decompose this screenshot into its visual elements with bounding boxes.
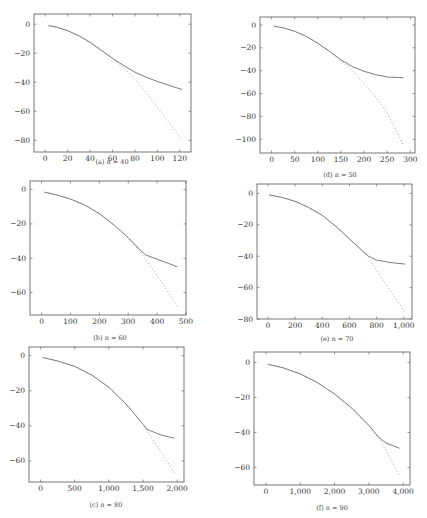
series-dashed xyxy=(268,364,400,476)
x-tick-label: 600 xyxy=(342,321,357,330)
y-tick-label: −60 xyxy=(237,283,253,292)
y-tick-label: −20 xyxy=(240,43,256,52)
x-tick-label: 250 xyxy=(380,155,395,164)
x-tick-label: 500 xyxy=(179,317,194,326)
y-tick-label: −60 xyxy=(9,456,25,465)
y-tick-label: −100 xyxy=(235,135,256,144)
x-tick-label: 2,000 xyxy=(324,487,346,496)
x-tick-label: 200 xyxy=(288,321,303,330)
x-tick-label: 200 xyxy=(357,155,372,164)
x-tick-label: 50 xyxy=(290,155,300,164)
x-tick-label: 4,000 xyxy=(392,487,414,496)
y-tick-label: −20 xyxy=(10,219,26,228)
x-tick-label: 3,000 xyxy=(358,487,380,496)
y-tick-label: −20 xyxy=(14,49,30,58)
x-tick-label: 0 xyxy=(43,154,48,163)
series-solid xyxy=(274,26,404,78)
y-tick-label: −40 xyxy=(10,254,26,263)
series-solid xyxy=(43,358,175,439)
x-tick-label: 1,500 xyxy=(132,484,154,493)
y-tick-label: 0 xyxy=(20,351,25,360)
x-tick-label: 500 xyxy=(68,484,83,493)
subplot-e: 02004006008001,0000−20−40−60−80 xyxy=(237,184,415,330)
figure-canvas: 0204060801001200−20−40−60−80050100150200… xyxy=(0,0,427,518)
x-tick-label: 400 xyxy=(315,321,330,330)
y-tick-label: −40 xyxy=(234,428,250,437)
series-dashed xyxy=(274,26,404,145)
x-tick-label: 1,000 xyxy=(393,321,415,330)
x-tick-label: 100 xyxy=(63,317,78,326)
x-tick-label: 300 xyxy=(403,155,418,164)
series-solid xyxy=(269,195,405,264)
subplot-f: 01,0002,0003,0004,0000−20−40−60 xyxy=(234,352,414,496)
y-tick-label: −80 xyxy=(14,136,30,145)
series-solid xyxy=(44,192,177,267)
y-tick-label: −40 xyxy=(14,78,30,87)
series-dashed xyxy=(43,358,175,474)
axes-frame xyxy=(29,347,184,482)
x-tick-label: 2,000 xyxy=(166,484,188,493)
y-tick-label: 0 xyxy=(248,189,253,198)
x-tick-label: 120 xyxy=(173,154,188,163)
x-tick-label: 800 xyxy=(369,321,384,330)
y-tick-label: −60 xyxy=(234,463,250,472)
x-tick-label: 150 xyxy=(334,155,349,164)
y-tick-label: 0 xyxy=(25,20,30,29)
x-tick-label: 300 xyxy=(121,317,136,326)
subplot-caption-a: (a) n = 40 xyxy=(82,158,142,166)
subplot-caption-f: (f) n = 90 xyxy=(302,504,362,512)
y-tick-label: −20 xyxy=(9,386,25,395)
series-dashed xyxy=(269,195,405,313)
x-tick-label: 20 xyxy=(63,154,73,163)
x-tick-label: 100 xyxy=(311,155,326,164)
series-dashed xyxy=(44,192,177,306)
subplot-caption-c: (c) n = 80 xyxy=(76,501,136,509)
y-tick-label: −20 xyxy=(237,220,253,229)
subplot-c: 05001,0001,5002,0000−20−40−60 xyxy=(9,347,188,493)
x-tick-label: 0 xyxy=(39,317,44,326)
x-tick-label: 1,000 xyxy=(98,484,120,493)
x-tick-label: 200 xyxy=(92,317,107,326)
subplot-caption-b: (b) n = 60 xyxy=(80,334,140,342)
x-tick-label: 0 xyxy=(265,321,270,330)
x-tick-label: 1,000 xyxy=(290,487,312,496)
y-tick-label: −80 xyxy=(240,112,256,121)
y-tick-label: −60 xyxy=(240,89,256,98)
x-tick-label: 0 xyxy=(269,155,274,164)
series-solid xyxy=(268,364,400,448)
axes-frame xyxy=(257,184,412,319)
axes-frame xyxy=(254,352,410,485)
y-tick-label: −40 xyxy=(240,66,256,75)
x-tick-label: 100 xyxy=(150,154,165,163)
y-tick-label: −40 xyxy=(9,421,25,430)
x-tick-label: 400 xyxy=(150,317,165,326)
subplot-caption-e: (e) n = 70 xyxy=(307,335,367,343)
y-tick-label: 0 xyxy=(245,358,250,367)
x-tick-label: 0 xyxy=(264,487,269,496)
x-tick-label: 0 xyxy=(38,484,43,493)
y-tick-label: −60 xyxy=(10,288,26,297)
y-tick-label: 0 xyxy=(251,21,256,30)
subplot-caption-d: (d) n = 50 xyxy=(310,171,370,179)
y-tick-label: −20 xyxy=(234,393,250,402)
axes-frame xyxy=(30,181,186,315)
series-solid xyxy=(49,26,182,90)
y-tick-label: −80 xyxy=(237,315,253,324)
subplot-d: 0501001502002503000−20−40−60−80−100 xyxy=(235,17,417,164)
axes-frame xyxy=(34,14,191,152)
axes-frame xyxy=(260,17,415,153)
y-tick-label: −60 xyxy=(14,107,30,116)
subplot-a: 0204060801001200−20−40−60−80 xyxy=(14,14,191,163)
y-tick-label: 0 xyxy=(21,185,26,194)
subplot-b: 01002003004005000−20−40−60 xyxy=(10,181,193,326)
y-tick-label: −40 xyxy=(237,252,253,261)
